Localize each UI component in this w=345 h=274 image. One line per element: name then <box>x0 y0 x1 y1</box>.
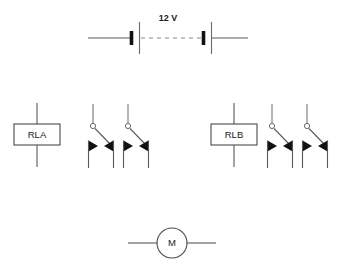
motor-symbol: M <box>128 228 216 258</box>
rlb-contact-1 <box>268 104 293 168</box>
rlb-contact-2-left-contact-icon <box>303 141 313 152</box>
schematic-canvas: 12 V RLA <box>0 0 345 274</box>
rlb-contact-2-pivot-icon <box>304 123 309 128</box>
rlb-contact-2 <box>303 104 328 168</box>
rla-coil-label: RLA <box>28 129 47 140</box>
battery-voltage-label: 12 V <box>159 13 178 23</box>
rla-contact-1-left-contact-icon <box>89 141 99 152</box>
rla-contact-2-pivot-icon <box>125 123 130 128</box>
rlb-contact-1-blade <box>274 129 290 146</box>
rla-contact-2 <box>124 104 149 168</box>
relay-coil-rla: RLA <box>14 103 60 167</box>
rlb-contact-1-pivot-icon <box>269 123 274 128</box>
relay-coil-rlb: RLB <box>211 103 257 167</box>
rlb-contact-2-blade <box>309 129 325 146</box>
motor-label: M <box>168 237 176 248</box>
rla-contact-2-left-contact-icon <box>124 141 134 152</box>
rla-contact-1-pivot-icon <box>90 123 95 128</box>
rla-contact-1-blade <box>95 129 111 146</box>
battery-symbol: 12 V <box>88 13 248 54</box>
rla-contact-1 <box>89 104 114 168</box>
rla-contact-2-blade <box>130 129 146 146</box>
circuit-diagram: 12 V RLA <box>0 0 345 274</box>
rlb-coil-label: RLB <box>225 129 243 140</box>
rlb-contact-1-left-contact-icon <box>268 141 278 152</box>
